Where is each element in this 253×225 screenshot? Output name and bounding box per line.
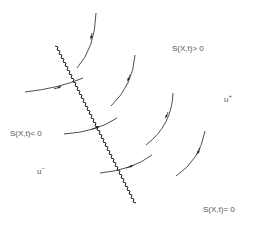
label-u-minus: u− [37,165,45,176]
u-plus-sup: + [228,93,232,99]
characteristic-lower-1 [25,78,83,92]
u-minus-sup: − [41,165,45,171]
diagram-canvas [0,0,253,225]
label-shock-front: S(X,t)= 0 [203,205,235,214]
characteristic-lower-3 [100,155,152,173]
label-negative-region: S(X,t)< 0 [10,129,42,138]
label-u-plus: u+ [224,93,232,104]
characteristic-upper-4 [176,131,205,176]
characteristic-upper-1 [77,13,96,68]
characteristic-upper-2 [111,55,135,106]
label-positive-region: S(X,t)> 0 [172,44,204,53]
characteristic-lower-2 [64,118,117,134]
characteristic-upper-3 [146,93,173,145]
shock-front-line [55,46,136,203]
